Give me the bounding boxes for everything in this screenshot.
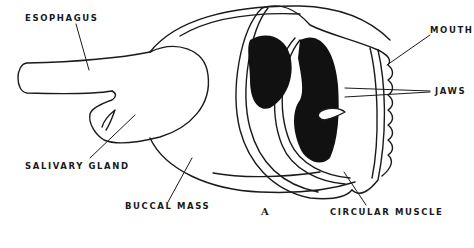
label-jaws: JAWS: [435, 86, 466, 96]
mouth-leader: [387, 35, 430, 65]
label-mouth: MOUTH: [430, 25, 474, 35]
jaws-leader-1: [345, 88, 430, 91]
jaws-leader-2: [345, 92, 430, 97]
esophagus-shape: [18, 52, 150, 94]
jaw-black-region: [248, 36, 291, 109]
label-circular-muscle: CIRCULAR MUSCLE: [330, 207, 444, 217]
esophagus-leader: [76, 24, 89, 70]
circular-muscle-leader: [344, 172, 366, 205]
figure-letter: A: [261, 206, 269, 217]
label-salivary-gland: SALIVARY GLAND: [25, 161, 130, 171]
label-buccal-mass: BUCCAL MASS: [125, 201, 210, 211]
mouth-ridges: [378, 50, 393, 176]
salivary-gland-leader: [90, 115, 135, 158]
buccal-mass-diagram: ESOPHAGUS MOUTH JAWS SALIVARY GLAND BUCC…: [0, 0, 474, 248]
label-esophagus: ESOPHAGUS: [25, 13, 98, 23]
